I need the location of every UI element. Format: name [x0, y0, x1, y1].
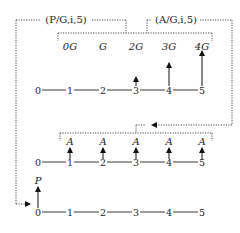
period-label: 0	[35, 85, 41, 96]
period-label: 0	[35, 207, 41, 218]
annuity-labels: A A A A A	[65, 136, 205, 147]
period-label: 3	[133, 85, 139, 96]
pg-factor-label: (P/G,i,5)	[45, 14, 87, 25]
gradient-label: 3G	[162, 41, 176, 52]
period-label: 5	[199, 85, 205, 96]
annuity-label: A	[65, 136, 73, 147]
gradient-label: 4G	[194, 41, 209, 52]
gradient-label: G	[99, 41, 107, 52]
present-worth-timeline: 0 1 2 3 4 5	[35, 207, 205, 218]
annuity-label: A	[197, 136, 205, 147]
ag-connector	[136, 20, 232, 133]
period-label: 2	[100, 157, 106, 168]
cash-flow-diagram: (P/G,i,5) (A/G,i,5) 0G G 2G 3G 4G 0	[0, 0, 240, 233]
period-label: 1	[67, 207, 73, 218]
period-label: 1	[67, 157, 73, 168]
period-label: 2	[100, 207, 106, 218]
gradient-arrows	[136, 51, 202, 86]
gradient-label: 0G	[63, 41, 77, 52]
period-label: 4	[166, 207, 172, 218]
gradient-timeline: 0 1 2 3 4 5	[35, 85, 205, 96]
gradient-bracket	[58, 33, 212, 41]
gradient-label: 2G	[128, 41, 143, 52]
annuity-timeline: 0 1 2 3 4 5	[35, 157, 205, 168]
period-label: 5	[199, 207, 205, 218]
period-label: 2	[100, 85, 106, 96]
period-label: 1	[67, 85, 73, 96]
annuity-label: A	[98, 136, 106, 147]
period-label: 4	[166, 157, 172, 168]
period-label: 5	[199, 157, 205, 168]
period-label: 4	[166, 85, 172, 96]
period-label: 0	[35, 157, 41, 168]
annuity-label: A	[164, 136, 172, 147]
period-label: 3	[133, 157, 139, 168]
gradient-labels: 0G G 2G 3G 4G	[63, 41, 209, 52]
annuity-label: A	[131, 136, 139, 147]
period-label: 3	[133, 207, 139, 218]
ag-factor-label: (A/G,i,5)	[155, 14, 197, 25]
present-worth-label: P	[34, 175, 42, 186]
